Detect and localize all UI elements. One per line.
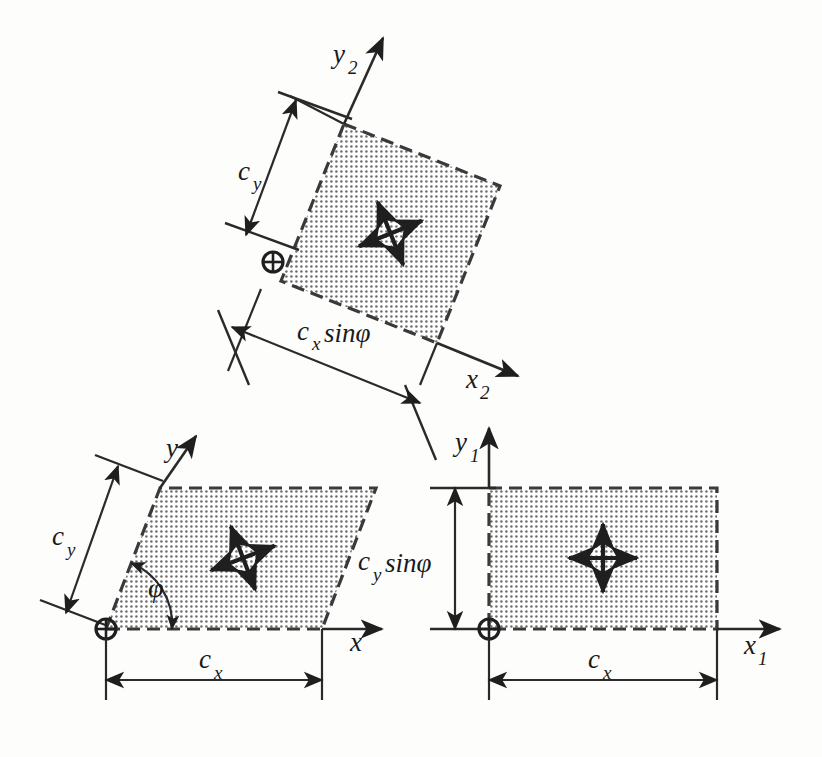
tick-cx-left-rotated bbox=[218, 310, 249, 385]
tick-cy-lower-rotated bbox=[225, 223, 299, 250]
axis-label-x1: x bbox=[743, 630, 756, 660]
label-cx-sheared: c bbox=[199, 644, 211, 674]
axis-label-x1-subscript: 1 bbox=[758, 648, 768, 669]
tick-cy-upper-rotated bbox=[278, 92, 352, 119]
axis-label-y: y bbox=[163, 433, 178, 463]
label-cx-suffix-rotated: sinφ bbox=[324, 318, 371, 348]
axis-label-y2-subscript: 2 bbox=[348, 57, 358, 78]
label-cx-subscript-rotated: x bbox=[311, 333, 321, 354]
origin-marker-sheared bbox=[96, 619, 116, 639]
label-cy-rotated: c bbox=[238, 156, 250, 186]
axis-label-x2-subscript: 2 bbox=[480, 382, 490, 403]
label-cy-rectangular: c bbox=[358, 546, 370, 576]
figure-root: c y c x sinφ y 2 x 2 bbox=[0, 0, 822, 757]
dimension-cy-arrow-rotated bbox=[246, 100, 296, 235]
panel-rotated-cell: c y c x sinφ y 2 x 2 bbox=[218, 38, 518, 460]
label-phi-sheared: φ bbox=[148, 572, 164, 603]
label-cx-rotated: c bbox=[297, 316, 309, 346]
label-cy-sheared: c bbox=[52, 521, 64, 551]
tick-cx-right-rotated bbox=[405, 385, 436, 460]
label-cy-suffix-rectangular: sinφ bbox=[385, 548, 432, 578]
label-cy-subscript-rotated: y bbox=[251, 173, 262, 194]
label-cy-subscript-sheared: y bbox=[65, 539, 76, 560]
axis-y2-line bbox=[344, 38, 383, 124]
label-cy-subscript-rectangular: y bbox=[371, 564, 382, 585]
panel-sheared-cell: c y φ c x y x bbox=[40, 433, 382, 700]
label-cx-subscript-sheared: x bbox=[213, 662, 223, 683]
label-cx-rectangular: c bbox=[588, 644, 600, 674]
axis-label-x2: x bbox=[465, 364, 478, 394]
origin-marker-rotated bbox=[263, 252, 283, 272]
axis-label-y1-subscript: 1 bbox=[470, 445, 480, 466]
panel-rectangular-cell: c y sinφ c x y 1 x 1 bbox=[358, 427, 780, 700]
origin-stub-rotated bbox=[228, 289, 261, 371]
label-cx-subscript-rectangular: x bbox=[602, 662, 612, 683]
axis-label-x: x bbox=[349, 627, 362, 657]
tick-cy-upper-sheared bbox=[95, 455, 163, 481]
axis-label-y2: y bbox=[330, 39, 345, 69]
coordinate-transformation-diagram: c y c x sinφ y 2 x 2 bbox=[0, 0, 822, 757]
axis-label-y1: y bbox=[452, 427, 467, 457]
extension-cx-right-rotated bbox=[420, 343, 437, 385]
origin-marker-rectangular bbox=[479, 619, 499, 639]
